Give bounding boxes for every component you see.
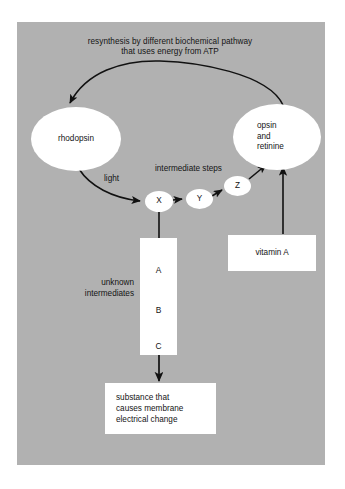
node-unknown-intermediates-column: A B C	[140, 238, 177, 355]
pathway-title-label: resynthesis by different biochemical pat…	[50, 37, 290, 58]
node-z: Z	[224, 176, 251, 196]
node-rhodopsin: rhodopsin	[31, 107, 121, 171]
edge-label-unknown-intermediates: unknown intermediates	[56, 278, 134, 299]
intermediate-letter-b: B	[140, 306, 177, 315]
node-x: X	[145, 191, 173, 212]
node-substance: substance that causes membrane electrica…	[105, 383, 216, 434]
node-y: Y	[186, 189, 213, 209]
diagram-page: resynthesis by different biochemical pat…	[0, 0, 345, 489]
node-vitamin-a: vitamin A	[228, 235, 316, 271]
intermediate-letter-c: C	[140, 342, 177, 351]
node-opsin-and-retinine: opsin and retinine	[233, 104, 321, 170]
intermediate-letter-a: A	[140, 266, 177, 275]
node-rhodopsin-label: rhodopsin	[31, 134, 121, 145]
edge-label-light: light	[104, 174, 119, 185]
node-substance-label: substance that causes membrane electrica…	[105, 383, 216, 425]
node-opsin-and-retinine-label: opsin and retinine	[233, 121, 321, 153]
node-z-label: Z	[224, 181, 251, 192]
node-x-label: X	[145, 196, 173, 207]
node-y-label: Y	[186, 194, 213, 205]
node-vitamin-a-label: vitamin A	[228, 235, 316, 258]
edge-label-intermediate-steps: intermediate steps	[155, 164, 222, 175]
